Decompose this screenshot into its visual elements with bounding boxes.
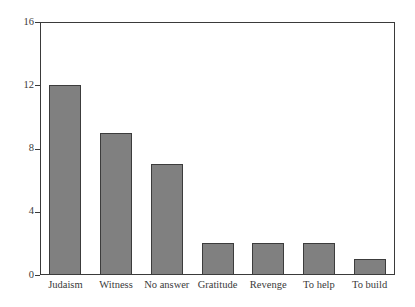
x-axis-tick-label: No answer <box>141 280 192 291</box>
plot-area <box>40 22 395 275</box>
y-axis-tick-label: 8 <box>2 143 34 154</box>
bar <box>49 85 81 275</box>
bar <box>151 164 183 275</box>
y-axis-tick-labels: 0481216 <box>0 0 34 307</box>
y-axis-tick-mark <box>35 275 40 276</box>
bar-chart: 0481216 JudaismWitnessNo answerGratitude… <box>0 0 415 307</box>
bar <box>202 243 234 275</box>
x-axis-tick-label: To build <box>344 280 395 291</box>
y-axis-tick-label: 12 <box>2 80 34 91</box>
bar <box>100 133 132 275</box>
x-axis-tick-label: Revenge <box>243 280 294 291</box>
bar <box>252 243 284 275</box>
bar <box>303 243 335 275</box>
x-axis-tick-label: Judaism <box>40 280 91 291</box>
y-axis-tick-label: 0 <box>2 270 34 281</box>
x-axis-tick-label: Gratitude <box>192 280 243 291</box>
y-axis-tick-label: 4 <box>2 206 34 217</box>
y-axis-tick-label: 16 <box>2 17 34 28</box>
bar <box>354 259 386 275</box>
x-axis-tick-label: To help <box>294 280 345 291</box>
x-axis-tick-label: Witness <box>91 280 142 291</box>
